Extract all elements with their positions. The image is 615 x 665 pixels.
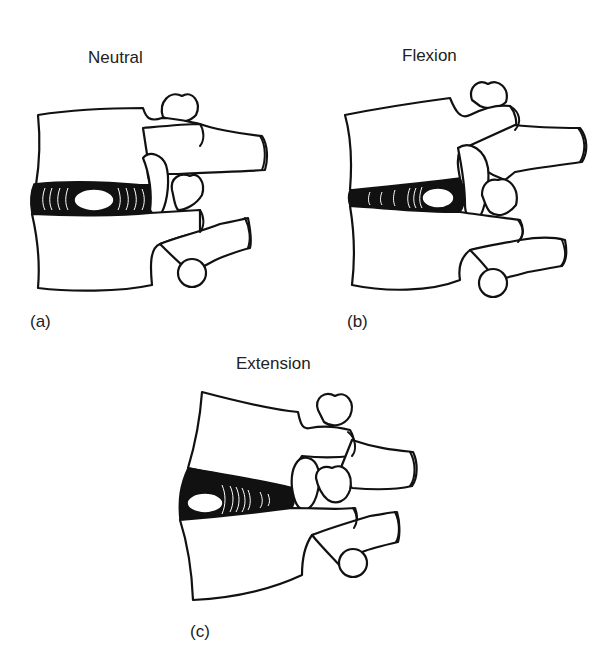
panel-flexion: Flexion (b) bbox=[310, 0, 615, 340]
panel-neutral: Neutral (a) bbox=[0, 0, 310, 340]
panel-label-b: (b) bbox=[347, 312, 368, 332]
panel-label-a: (a) bbox=[30, 312, 51, 332]
vertebrae-flexion-drawing bbox=[310, 0, 615, 340]
vertebrae-neutral-drawing bbox=[0, 0, 310, 340]
panel-label-c: (c) bbox=[190, 622, 210, 642]
vertebrae-extension-drawing bbox=[150, 340, 450, 665]
panel-extension: Extension (c) bbox=[150, 340, 450, 665]
